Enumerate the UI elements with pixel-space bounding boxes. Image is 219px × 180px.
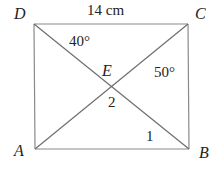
vertex-label-d: D <box>13 5 26 22</box>
angle-label-d: 40° <box>69 33 90 49</box>
side-cb <box>188 24 189 149</box>
vertex-label-a: A <box>13 142 24 159</box>
angle-label-2: 2 <box>108 94 116 110</box>
vertex-label-c: C <box>195 5 206 22</box>
side-length-label: 14 cm <box>87 2 124 18</box>
vertex-label-b: B <box>199 144 209 161</box>
intersection-label-e: E <box>101 62 112 79</box>
angle-label-1: 1 <box>146 128 154 144</box>
geometry-diagram: D C A B E 14 cm 40° 50° 2 1 <box>0 0 219 180</box>
angle-label-c: 50° <box>154 64 175 80</box>
side-ad <box>34 24 35 149</box>
diagonals <box>34 24 189 149</box>
